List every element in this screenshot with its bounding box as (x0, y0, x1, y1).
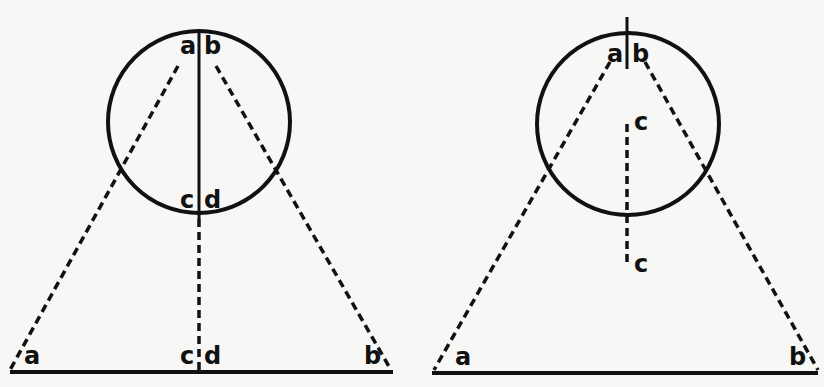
left-dashed-line-a (10, 66, 178, 370)
right-label-lower-c: c (634, 252, 648, 276)
diagram-drawing (0, 0, 824, 387)
right-dashed-line-a (434, 62, 610, 370)
left-label-base-b: b (364, 344, 381, 368)
right-label-base-b: b (789, 345, 806, 369)
left-label-mid-d: d (204, 188, 221, 212)
right-label-top-a: a (607, 42, 623, 66)
left-label-mid-c: c (180, 188, 194, 212)
left-label-base-a: a (24, 344, 40, 368)
right-label-center-c: c (634, 110, 648, 134)
right-figure (432, 17, 818, 373)
left-label-top-a: a (180, 34, 196, 58)
left-label-base-d: d (204, 344, 221, 368)
left-label-top-b: b (204, 34, 221, 58)
right-label-base-a: a (455, 345, 471, 369)
left-figure (10, 31, 393, 372)
left-dashed-line-b (216, 66, 391, 370)
right-dashed-line-b (645, 62, 818, 370)
left-label-base-c: c (180, 344, 194, 368)
right-label-top-b: b (632, 42, 649, 66)
diagram-canvas: a b c d a c d b a b c c a b (0, 0, 824, 387)
